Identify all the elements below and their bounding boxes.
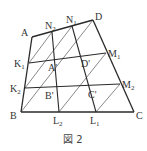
grid-line-k1-m1 [29, 53, 106, 63]
label-bp: B' [45, 90, 54, 101]
side-a-d [32, 20, 93, 37]
label-b: B [10, 110, 17, 121]
label-n1: N1 [66, 14, 77, 27]
label-dp: D' [81, 58, 90, 69]
label-d: D [95, 11, 102, 22]
diagonal-k2-n1 [25, 26, 72, 88]
side-d-c [93, 20, 134, 112]
label-n2: N2 [45, 20, 56, 33]
label-c: C [136, 110, 143, 121]
quadrilateral-diagram: AN2N1DK1A'D'M1K2B'C'M2BL2L1C 図 2 [0, 0, 147, 151]
figure-caption: 図 2 [63, 134, 83, 145]
label-ap: A' [48, 62, 57, 73]
side-b-a [21, 37, 32, 112]
diagonal-l1-m2 [96, 84, 120, 112]
label-l2: L2 [53, 115, 63, 128]
label-l1: L1 [90, 115, 100, 128]
label-cp: C' [88, 89, 97, 100]
point-labels: AN2N1DK1A'D'M1K2B'C'M2BL2L1C [10, 11, 143, 128]
label-k2: K2 [10, 83, 21, 96]
diagram-lines [21, 20, 134, 112]
label-k1: K1 [14, 58, 25, 71]
grid-line-k2-m2 [25, 84, 120, 88]
label-a: A [21, 27, 29, 38]
